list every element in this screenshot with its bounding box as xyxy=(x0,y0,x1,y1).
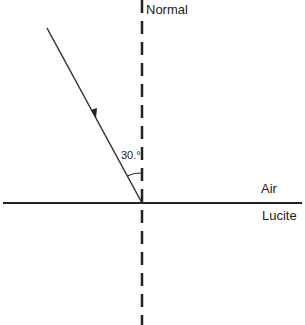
refraction-diagram xyxy=(0,0,305,325)
angle-arc xyxy=(127,173,142,176)
normal-label: Normal xyxy=(146,2,188,17)
angle-label: 30.° xyxy=(121,149,141,161)
lucite-label: Lucite xyxy=(262,208,297,223)
air-label: Air xyxy=(261,181,277,196)
